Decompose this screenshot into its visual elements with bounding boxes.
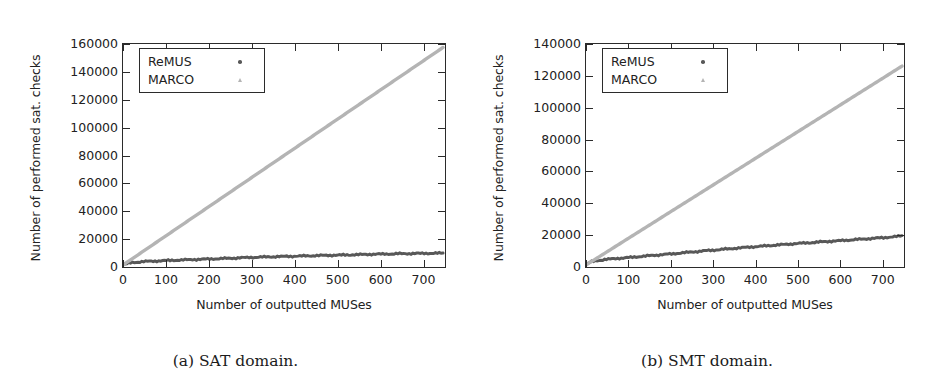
y-axis-tick — [586, 171, 593, 172]
y-axis-tick-label: 160000 — [70, 38, 118, 51]
y-axis-tick — [438, 156, 445, 157]
y-axis-tick — [586, 235, 593, 236]
x-axis-tick — [123, 44, 124, 51]
y-axis-tick — [897, 76, 904, 77]
legend-item-marco[interactable]: MARCO — [148, 70, 258, 88]
x-axis-tick — [381, 44, 382, 51]
y-axis-tick-label: 0 — [573, 261, 581, 274]
x-axis-tick — [586, 260, 587, 267]
legend-item-remus[interactable]: ReMUS — [148, 52, 258, 70]
x-axis-tick-label: 0 — [119, 274, 127, 287]
x-axis-tick-label: 400 — [744, 274, 768, 287]
x-axis-tick-label: 500 — [786, 274, 810, 287]
x-axis-tick — [295, 44, 296, 51]
x-axis-tick — [713, 260, 714, 267]
x-axis-tick — [756, 44, 757, 51]
y-axis-tick — [123, 128, 130, 129]
y-axis-tick-label: 140000 — [533, 38, 581, 51]
y-axis-tick — [586, 140, 593, 141]
x-axis-tick — [338, 260, 339, 267]
y-axis-tick-label: 80000 — [78, 149, 118, 162]
x-axis-tick-label: 600 — [828, 274, 852, 287]
triangle-marker-icon — [685, 70, 721, 89]
y-axis-tick — [586, 76, 593, 77]
x-axis-tick-label: 400 — [283, 274, 307, 287]
x-axis-tick — [883, 260, 884, 267]
y-axis-tick-label: 80000 — [541, 133, 581, 146]
y-axis-tick — [897, 267, 904, 268]
series-line-remus — [586, 236, 902, 265]
y-axis-tick-label: 60000 — [78, 177, 118, 190]
legend-item-label: ReMUS — [148, 54, 222, 69]
legend: ReMUSMARCO — [139, 48, 265, 93]
x-axis-tick — [798, 44, 799, 51]
plot-area-smt: 0200004000060000800001000001200001400000… — [585, 43, 905, 268]
y-axis-tick-label: 0 — [110, 261, 118, 274]
legend-item-marco[interactable]: MARCO — [611, 70, 721, 88]
y-axis-tick — [123, 239, 130, 240]
series-line-remus — [123, 252, 443, 265]
y-axis-tick — [123, 72, 130, 73]
x-axis-tick — [252, 260, 253, 267]
y-axis-tick — [438, 267, 445, 268]
y-axis-tick-label: 120000 — [70, 94, 118, 107]
y-axis-tick — [123, 267, 130, 268]
x-axis-tick — [424, 44, 425, 51]
y-axis-tick-label: 40000 — [78, 205, 118, 218]
y-axis-tick — [438, 128, 445, 129]
x-axis-tick-label: 300 — [240, 274, 264, 287]
y-axis-tick — [586, 44, 593, 45]
y-axis-tick — [897, 235, 904, 236]
x-axis-tick-label: 600 — [369, 274, 393, 287]
x-axis-tick-label: 300 — [701, 274, 725, 287]
legend-item-label: ReMUS — [611, 54, 685, 69]
x-axis-tick — [586, 44, 587, 51]
dot-marker-icon — [685, 52, 721, 71]
legend-item-remus[interactable]: ReMUS — [611, 52, 721, 70]
y-axis-tick — [123, 44, 130, 45]
y-axis-tick — [438, 44, 445, 45]
x-axis-tick-label: 100 — [616, 274, 640, 287]
panel-smt-domain: Number of performed sat. checks 02000040… — [471, 0, 943, 392]
triangle-marker-icon — [222, 70, 258, 89]
legend-item-label: MARCO — [611, 72, 685, 87]
caption-smt: (b) SMT domain. — [471, 352, 943, 370]
y-axis-title-smt: Number of performed sat. checks — [491, 28, 511, 288]
legend: ReMUSMARCO — [602, 48, 728, 93]
x-axis-tick — [424, 260, 425, 267]
x-axis-tick-label: 500 — [326, 274, 350, 287]
y-axis-tick — [123, 183, 130, 184]
y-axis-tick — [897, 203, 904, 204]
x-axis-title-sat: Number of outputted MUSes — [122, 297, 446, 312]
x-axis-tick-label: 200 — [659, 274, 683, 287]
panel-sat-domain: Number of performed sat. checks 02000040… — [0, 0, 471, 392]
dot-marker-icon — [222, 52, 258, 71]
y-axis-tick — [438, 211, 445, 212]
y-axis-tick-label: 140000 — [70, 66, 118, 79]
x-axis-tick-label: 100 — [154, 274, 178, 287]
x-axis-tick-label: 700 — [871, 274, 895, 287]
y-axis-tick-label: 20000 — [541, 229, 581, 242]
y-axis-tick — [123, 211, 130, 212]
y-axis-tick — [438, 239, 445, 240]
x-axis-tick-label: 0 — [582, 274, 590, 287]
y-axis-title-sat: Number of performed sat. checks — [28, 28, 48, 288]
y-axis-tick — [586, 203, 593, 204]
x-axis-tick — [123, 260, 124, 267]
x-axis-tick — [628, 260, 629, 267]
legend-item-label: MARCO — [148, 72, 222, 87]
figure-two-panel: Number of performed sat. checks 02000040… — [0, 0, 943, 392]
x-axis-tick — [671, 260, 672, 267]
y-axis-tick — [438, 100, 445, 101]
x-axis-tick — [798, 260, 799, 267]
y-axis-tick — [897, 44, 904, 45]
y-axis-tick-label: 20000 — [78, 233, 118, 246]
y-axis-tick — [123, 156, 130, 157]
x-axis-tick — [295, 260, 296, 267]
x-axis-tick — [338, 44, 339, 51]
y-axis-tick — [438, 72, 445, 73]
y-axis-tick-label: 100000 — [533, 101, 581, 114]
y-axis-tick-label: 40000 — [541, 197, 581, 210]
y-axis-tick-label: 60000 — [541, 165, 581, 178]
x-axis-tick-label: 200 — [197, 274, 221, 287]
